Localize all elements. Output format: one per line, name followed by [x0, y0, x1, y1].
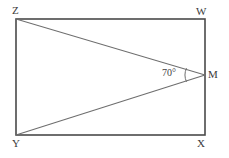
segment-YM	[16, 75, 205, 135]
angle-arc-at-M	[185, 68, 187, 82]
vertex-label-w: W	[196, 6, 206, 17]
angle-measure-label: 70°	[162, 68, 176, 78]
vertex-label-m: M	[208, 69, 218, 80]
vertex-label-x: X	[197, 138, 205, 149]
rectangle-ZWXY	[16, 19, 205, 135]
vertex-label-y: Y	[12, 138, 20, 149]
segment-ZM	[16, 19, 205, 75]
geometry-canvas	[0, 0, 229, 158]
vertex-label-z: Z	[12, 5, 19, 16]
geometry-figure: Z W Y X M 70°	[0, 0, 229, 158]
